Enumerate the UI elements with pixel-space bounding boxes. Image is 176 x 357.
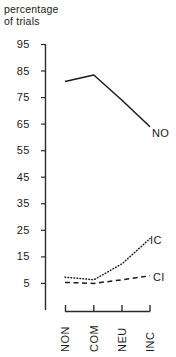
y-tick-label-85: 85 [4,66,30,77]
line-chart: percentageof trials [0,0,176,357]
x-axis-line [65,305,150,312]
x-tick-label-inc: INC [145,332,156,352]
series-line-ic [65,239,150,280]
y-tick-label-45: 45 [4,172,30,183]
y-tick-label-55: 55 [4,145,30,156]
y-tick-label-65: 65 [4,119,30,130]
series-label-ci: CI [153,272,165,283]
y-tick-label-75: 75 [4,92,30,103]
y-tick-label-5: 5 [4,278,30,289]
series-line-ci [65,276,150,284]
x-tick-label-neu: NEU [117,327,128,352]
series-label-ic: IC [150,235,162,246]
series-label-no: NO [152,128,169,139]
x-tick-label-non: NON [60,326,71,352]
x-tick-label-com: COM [89,325,100,352]
y-tick-label-35: 35 [4,198,30,209]
series-line-no [65,75,150,127]
y-tick-label-25: 25 [4,225,30,236]
y-tick-label-15: 15 [4,251,30,262]
y-tick-label-95: 95 [4,39,30,50]
x-axis-ticks [94,305,122,312]
